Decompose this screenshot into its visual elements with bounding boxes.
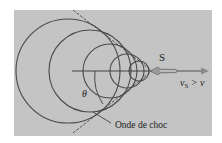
shock-wave-label: Onde de choc — [115, 120, 167, 130]
source-label: S — [159, 51, 165, 63]
shock-wave-diagram: S vS > v θ Onde de choc — [0, 0, 222, 143]
angle-label: θ — [82, 88, 87, 99]
